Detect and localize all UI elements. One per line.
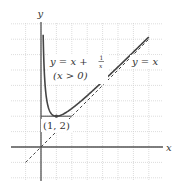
line-equation: y = x bbox=[131, 56, 158, 67]
point-marker-1-2 bbox=[55, 115, 58, 118]
line-equation-label: y = x bbox=[130, 55, 160, 68]
x-axis-label: x bbox=[166, 142, 172, 153]
y-axis-label: y bbox=[37, 8, 44, 19]
point-label-group: (1, 2) bbox=[41, 119, 73, 132]
curve-equation-lhs: y = x + bbox=[49, 56, 88, 67]
curve-equation-frac-numerator: 1 bbox=[100, 54, 104, 61]
curve-domain-condition: (x > 0) bbox=[53, 70, 88, 81]
point-label: (1, 2) bbox=[43, 120, 70, 131]
curve-equation-label: y = x + 1 x (x > 0) bbox=[48, 54, 108, 84]
chart: x y y = x + 1 x (x > 0) y = x (1, 2) bbox=[0, 0, 181, 183]
grid bbox=[11, 23, 163, 180]
